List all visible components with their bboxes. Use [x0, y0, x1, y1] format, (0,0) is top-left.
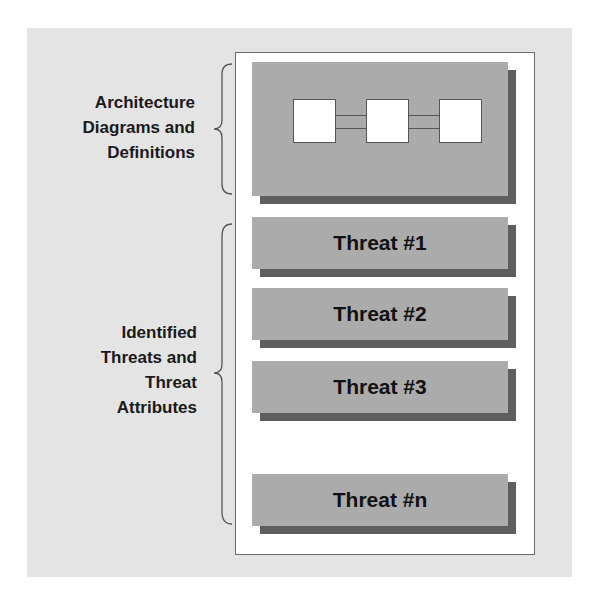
label-line: Identified: [40, 320, 197, 345]
component-box: [439, 99, 482, 143]
component-box: [366, 99, 409, 143]
threat-label: Threat #n: [252, 488, 508, 512]
threats-label: Identified Threats and Threat Attributes: [40, 320, 197, 420]
label-line: Threats and: [40, 345, 197, 370]
threat-card: Threat #1: [252, 217, 508, 269]
threat-card: Threat #3: [252, 361, 508, 413]
threats-brace-icon: [205, 222, 235, 527]
architecture-brace-icon: [205, 62, 235, 197]
threat-card: Threat #2: [252, 288, 508, 340]
threat-label: Threat #1: [252, 231, 508, 255]
threat-label: Threat #3: [252, 375, 508, 399]
architecture-card: [252, 62, 508, 196]
label-line: Diagrams and: [40, 115, 195, 140]
label-line: Architecture: [40, 90, 195, 115]
label-line: Attributes: [40, 395, 197, 420]
architecture-label: Architecture Diagrams and Definitions: [40, 90, 195, 165]
label-line: Threat: [40, 370, 197, 395]
label-line: Definitions: [40, 140, 195, 165]
component-box: [293, 99, 336, 143]
connector-line: [336, 115, 367, 129]
connector-line: [409, 115, 440, 129]
threat-label: Threat #2: [252, 302, 508, 326]
threat-card: Threat #n: [252, 474, 508, 526]
